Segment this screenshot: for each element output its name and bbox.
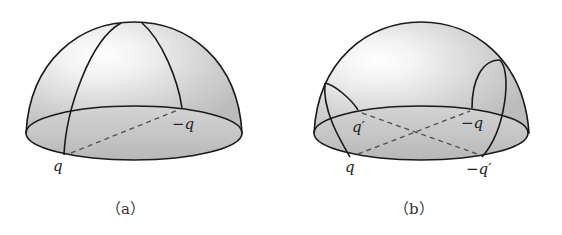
base-ellipse [26,106,242,160]
figure-a: q −q （a） [26,22,242,218]
hemisphere-diagram: q −q （a） q′ −q q −q′ （b） [0,0,562,235]
label-neg-q: −q [172,115,194,133]
label-q-prime: q′ [352,118,366,136]
figure-b: q′ −q q −q′ （b） [314,22,529,218]
label-neg-q-prime: −q′ [466,160,492,178]
caption-a: （a） [106,200,145,218]
label-neg-q: −q [461,114,483,132]
caption-b: （b） [394,200,434,218]
label-q: q [345,158,355,176]
label-q: q [53,157,63,175]
